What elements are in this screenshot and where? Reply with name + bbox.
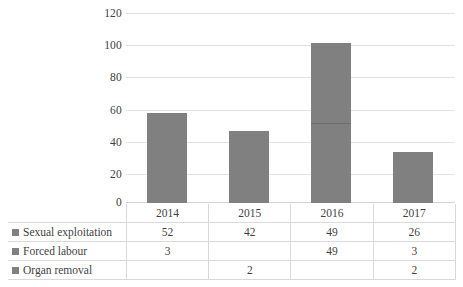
cell-forced-labour-2014: 3 xyxy=(126,242,208,261)
legend-swatch-icon xyxy=(12,248,19,255)
legend-swatch-icon xyxy=(12,267,19,274)
legend-label: Organ removal xyxy=(23,264,92,276)
bar-stack-2017[interactable] xyxy=(393,152,433,203)
y-axis-tick-label: 100 xyxy=(88,40,122,52)
column-2016 xyxy=(290,0,372,203)
legend-item-sexual-exploitation[interactable]: Sexual exploitation xyxy=(8,223,126,242)
cell-sexual-exploitation-2015: 42 xyxy=(209,223,291,242)
table-row: Organ removal 2 2 xyxy=(8,261,456,280)
y-axis-tick-label: 40 xyxy=(88,137,122,149)
y-axis-tick-label: 20 xyxy=(88,169,122,181)
bar-stack-2015[interactable] xyxy=(229,131,269,203)
column-header-2015: 2015 xyxy=(209,204,291,223)
cell-forced-labour-2017: 3 xyxy=(373,242,455,261)
legend-label: Sexual exploitation xyxy=(23,226,112,238)
cell-organ-removal-2014 xyxy=(126,261,208,280)
cell-sexual-exploitation-2014: 52 xyxy=(126,223,208,242)
table-row: Forced labour 3 49 3 xyxy=(8,242,456,261)
table-row: Sexual exploitation 52 42 49 26 xyxy=(8,223,456,242)
cell-sexual-exploitation-2016: 49 xyxy=(291,223,373,242)
bar-stack-2016[interactable] xyxy=(311,43,351,203)
stacked-column-chart: 120 100 80 60 40 20 0 xyxy=(0,0,463,287)
plot-area: 120 100 80 60 40 20 0 xyxy=(0,0,463,205)
column-2015 xyxy=(208,0,290,203)
column-header-2014: 2014 xyxy=(126,204,208,223)
y-axis: 120 100 80 60 40 20 0 xyxy=(85,0,122,205)
data-table: 2014 2015 2016 2017 Sexual exploitation … xyxy=(8,204,456,280)
column-header-2017: 2017 xyxy=(373,204,455,223)
bar-segment-sexual-exploitation-2015[interactable] xyxy=(229,134,269,203)
cell-organ-removal-2015: 2 xyxy=(209,261,291,280)
column-header-2016: 2016 xyxy=(291,204,373,223)
legend-item-organ-removal[interactable]: Organ removal xyxy=(8,261,126,280)
y-axis-tick-label: 120 xyxy=(88,8,122,20)
cell-sexual-exploitation-2017: 26 xyxy=(373,223,455,242)
table-corner-cell xyxy=(8,204,126,223)
bar-segment-sexual-exploitation-2017[interactable] xyxy=(393,160,433,203)
cell-organ-removal-2017: 2 xyxy=(373,261,455,280)
bar-segment-sexual-exploitation-2014[interactable] xyxy=(147,118,187,203)
table-header-row: 2014 2015 2016 2017 xyxy=(8,204,456,223)
column-2014 xyxy=(126,0,208,203)
legend-label: Forced labour xyxy=(23,245,87,257)
legend-swatch-icon xyxy=(12,229,19,236)
bar-stack-2014[interactable] xyxy=(147,113,187,203)
cell-forced-labour-2016: 49 xyxy=(291,242,373,261)
bars-layer xyxy=(126,0,455,203)
cell-forced-labour-2015 xyxy=(209,242,291,261)
cell-organ-removal-2016 xyxy=(291,261,373,280)
bar-segment-forced-labour-2016[interactable] xyxy=(311,43,351,123)
bar-segment-sexual-exploitation-2016[interactable] xyxy=(311,123,351,203)
column-2017 xyxy=(372,0,454,203)
legend-item-forced-labour[interactable]: Forced labour xyxy=(8,242,126,261)
y-axis-tick-label: 80 xyxy=(88,72,122,84)
y-axis-tick-label: 60 xyxy=(88,105,122,117)
